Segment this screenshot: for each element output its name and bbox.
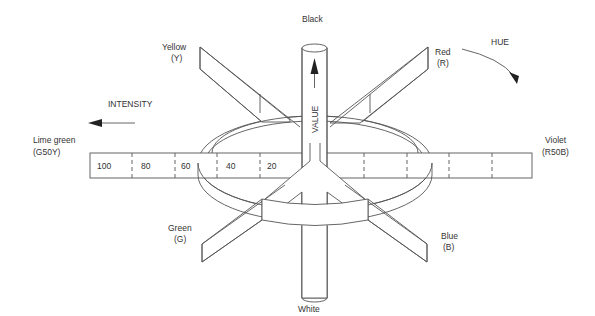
intensity-40: 40 bbox=[226, 161, 236, 171]
color-solid-diagram: 100 80 60 40 20 VALUE bbox=[0, 0, 595, 316]
intensity-80: 80 bbox=[141, 161, 151, 171]
label-blue: Blue bbox=[441, 231, 458, 241]
value-label: VALUE bbox=[310, 105, 320, 133]
label-hue: HUE bbox=[491, 37, 509, 47]
intensity-60: 60 bbox=[181, 161, 191, 171]
label-yellow-code: (Y) bbox=[171, 53, 183, 63]
intensity-arrow-icon bbox=[88, 119, 135, 127]
intensity-100: 100 bbox=[97, 161, 111, 171]
intensity-20: 20 bbox=[267, 161, 277, 171]
label-white: White bbox=[298, 304, 320, 314]
spoke-red bbox=[330, 47, 428, 127]
label-lime-green: Lime green bbox=[33, 135, 76, 145]
label-blue-code: (B) bbox=[443, 242, 455, 252]
hue-arrow-icon bbox=[462, 49, 519, 84]
label-red-code: (R) bbox=[437, 58, 449, 68]
label-violet-code: (R50B) bbox=[542, 147, 569, 157]
label-red: Red bbox=[435, 47, 451, 57]
label-lime-green-code: (G50Y) bbox=[33, 147, 61, 157]
label-violet: Violet bbox=[545, 135, 567, 145]
label-black: Black bbox=[302, 14, 324, 24]
label-intensity: INTENSITY bbox=[108, 99, 153, 109]
label-yellow: Yellow bbox=[162, 42, 187, 52]
label-green-code: (G) bbox=[174, 234, 186, 244]
label-green: Green bbox=[168, 223, 192, 233]
spoke-yellow bbox=[200, 47, 300, 127]
